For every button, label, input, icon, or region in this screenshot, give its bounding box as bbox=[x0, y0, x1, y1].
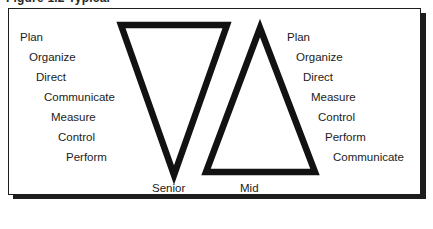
ladder-item: Plan bbox=[287, 27, 419, 47]
ladder-item: Control bbox=[287, 107, 419, 127]
ladder-item: Organize bbox=[20, 47, 140, 67]
ladder-item: Direct bbox=[287, 67, 419, 87]
figure-caption: Figure 1.2 Typical bbox=[6, 0, 110, 5]
ladder-item: Perform bbox=[287, 127, 419, 147]
ladder-item: Perform bbox=[20, 147, 140, 167]
ladder-item: Plan bbox=[20, 27, 140, 47]
mid-function-ladder: Plan Organize Direct Measure Control Per… bbox=[287, 27, 419, 167]
ladder-item: Measure bbox=[287, 87, 419, 107]
ladder-item: Organize bbox=[287, 47, 419, 67]
figure-caption-strip: Figure 1.2 Typical bbox=[0, 0, 433, 7]
ladder-item: Communicate bbox=[20, 87, 140, 107]
ladder-item: Measure bbox=[20, 107, 140, 127]
ladder-item: Communicate bbox=[287, 147, 419, 167]
tier-label-senior: Senior bbox=[152, 182, 185, 194]
tier-label-mid: Mid bbox=[240, 182, 259, 194]
ladder-item: Direct bbox=[20, 67, 140, 87]
frame-shadow-right bbox=[421, 13, 426, 199]
ladder-item: Control bbox=[20, 127, 140, 147]
frame-shadow-bottom bbox=[13, 195, 426, 199]
senior-function-ladder: Plan Organize Direct Communicate Measure… bbox=[20, 27, 140, 167]
figure-container: Figure 1.2 Typical Plan Organize Direct … bbox=[0, 0, 433, 229]
